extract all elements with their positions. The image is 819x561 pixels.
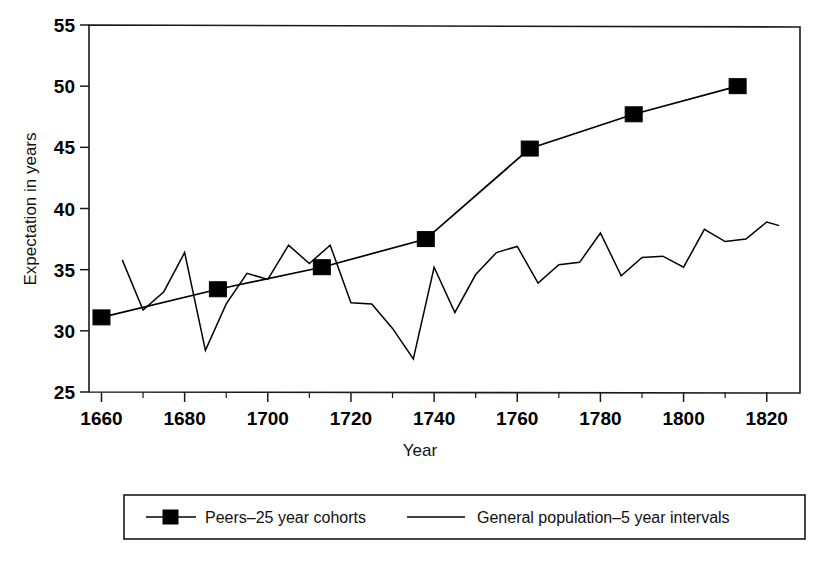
y-tick-label: 35 (54, 260, 76, 281)
x-tick-label: 1800 (662, 408, 704, 429)
data-point-marker (625, 107, 642, 122)
life-expectancy-line-chart: 25303540455055 1660168017001720174017601… (0, 0, 819, 561)
x-axis-label: Year (403, 441, 438, 460)
data-point-marker (209, 282, 226, 297)
y-tick-label: 55 (54, 15, 76, 36)
x-tick-label: 1720 (330, 408, 372, 429)
data-point-marker (93, 310, 110, 325)
y-tick-label: 40 (54, 199, 75, 220)
y-tick-label: 30 (54, 321, 75, 342)
x-tick-label: 1740 (413, 408, 455, 429)
y-tick-label: 50 (54, 76, 75, 97)
x-tick-label: 1760 (496, 408, 538, 429)
x-tick-label: 1780 (579, 408, 621, 429)
x-tick-label: 1700 (247, 408, 289, 429)
x-tick-label: 1680 (163, 408, 205, 429)
x-tick-label: 1820 (746, 408, 788, 429)
data-point-marker (313, 260, 330, 275)
legend-label-general-population: General population–5 year intervals (477, 509, 730, 526)
chart-background (0, 0, 819, 561)
y-tick-label: 45 (54, 137, 76, 158)
legend-square-marker-icon (163, 510, 178, 524)
y-tick-label: 25 (54, 382, 76, 403)
data-point-marker (417, 232, 434, 247)
x-tick-label: 1660 (80, 408, 122, 429)
legend-label-peers: Peers–25 year cohorts (205, 509, 366, 526)
y-axis-label: Expectation in years (21, 132, 40, 285)
data-point-marker (729, 79, 746, 94)
data-point-marker (521, 141, 538, 156)
